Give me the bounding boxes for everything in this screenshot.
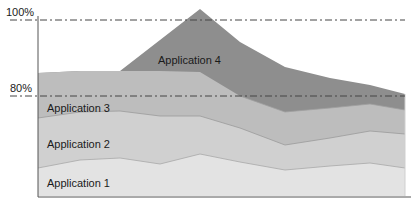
- label-application-2: Application 2: [47, 138, 110, 150]
- y-label-100: 100%: [6, 6, 34, 18]
- label-application-4: Application 4: [158, 54, 221, 66]
- stacked-area-chart: 100% 80% Application 4 Application 3 App…: [0, 0, 415, 202]
- y-label-80: 80%: [10, 82, 32, 94]
- label-application-1: Application 1: [47, 177, 110, 189]
- label-application-3: Application 3: [47, 102, 110, 114]
